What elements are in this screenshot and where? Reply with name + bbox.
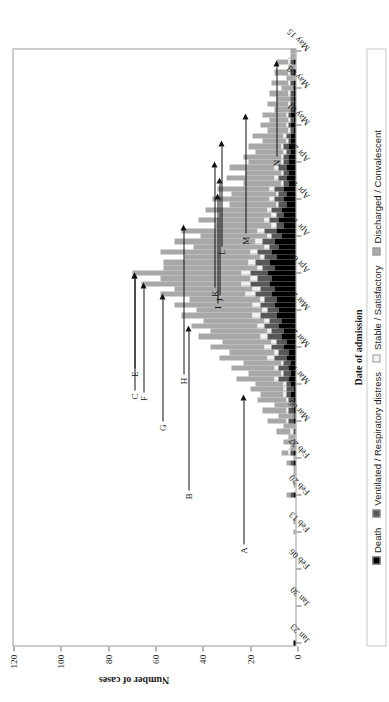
y-tick-mark [60, 646, 61, 651]
bar-segment-disch [215, 223, 272, 228]
bar-segment-disch [160, 249, 250, 254]
legend-label: Discharged / Convalescent [371, 130, 382, 244]
bar-segment-death [274, 265, 295, 270]
y-tick-label: 100 [55, 654, 65, 668]
annotation-arrowhead [273, 60, 279, 66]
bar-segment-vent [264, 296, 276, 301]
bar [163, 259, 296, 264]
bar-segment-disch [141, 281, 240, 286]
bar-segment-disch [236, 376, 274, 381]
bar [260, 392, 295, 397]
y-tick-label: 0 [292, 654, 302, 659]
bar-segment-disch [262, 112, 286, 117]
bar [269, 117, 295, 122]
bar-segment-death [286, 201, 295, 206]
bar-segment-death [293, 386, 295, 391]
bar-segment-death [286, 164, 295, 169]
plot-area: BCEFGHIJKLMNA [12, 48, 296, 646]
bar-segment-disch [278, 413, 292, 418]
bar-segment-death [274, 238, 295, 243]
bar [219, 212, 295, 217]
bar-segment-disch [243, 360, 281, 365]
bar-segment-vent [293, 428, 295, 433]
bar-segment-vent [269, 244, 278, 249]
annotation-leader-line [134, 278, 135, 368]
bar-segment-vent [250, 270, 267, 275]
bar-segment-disch [184, 254, 260, 259]
bar-segment-death [286, 355, 295, 360]
bar-segment-death [293, 59, 295, 64]
annotation-arrowhead [140, 283, 146, 289]
bar [293, 465, 295, 470]
bar [198, 333, 295, 338]
bar [252, 133, 295, 138]
bar [290, 48, 295, 53]
bar-segment-death [286, 191, 295, 196]
bar [229, 164, 295, 169]
x-tick-mark [296, 568, 301, 569]
bar-segment-death [293, 85, 295, 90]
plot-inner: BCEFGHIJKLMNA [13, 49, 295, 645]
bar [276, 428, 295, 433]
bar-segment-disch [217, 186, 269, 191]
bar [160, 291, 295, 296]
bar-segment-vent [255, 259, 269, 264]
bar [229, 349, 295, 354]
bar-segment-vent [274, 355, 286, 360]
bar [212, 196, 295, 201]
bar-segment-disch [267, 418, 286, 423]
y-tick-mark [155, 646, 156, 651]
bar [231, 191, 295, 196]
x-axis: Jan 23Jan 30Feb 06Feb 13Feb 20Feb 27Mar … [296, 48, 356, 646]
bar [181, 312, 295, 317]
bar [219, 355, 295, 360]
bar-segment-death [293, 492, 295, 497]
bar-segment-vent [276, 223, 283, 228]
legend-label: Death [371, 527, 382, 552]
bar-segment-disch [132, 270, 241, 275]
bar [271, 80, 295, 85]
bar-segment-disch [210, 344, 264, 349]
bar-segment-disch [255, 381, 283, 386]
bar-segment-death [290, 392, 295, 397]
annotation-arrowhead [180, 224, 186, 230]
bar-segment-vent [255, 291, 272, 296]
bar-segment-disch [252, 133, 283, 138]
bar-segment-vent [276, 339, 285, 344]
bar-segment-disch [193, 244, 264, 249]
bar [141, 281, 295, 286]
bar-segment-vent [271, 328, 283, 333]
legend-label: Stable / Satisfactory [371, 265, 382, 349]
rotated-figure-wrapper: 020406080100120 Number of cases BCEFGHIJ… [0, 0, 389, 702]
annotation-arrowhead [211, 161, 217, 167]
bar-segment-disch [269, 90, 288, 95]
annotation-arrowhead [240, 394, 246, 400]
legend-swatch [372, 509, 380, 517]
bar-segment-vent [264, 228, 276, 233]
annotation-label: M [240, 236, 250, 244]
bar-segment-death [276, 228, 295, 233]
bar-segment-disch [290, 54, 295, 59]
bar-segment-death [290, 122, 295, 127]
annotation-label: C [129, 393, 139, 399]
y-tick-label: 40 [197, 654, 207, 663]
bar [189, 296, 295, 301]
bar-segment-vent [278, 349, 287, 354]
bar-segment-disch [222, 339, 272, 344]
bar-segment-death [288, 159, 295, 164]
bar-segment-vent [286, 133, 291, 138]
bar [236, 376, 295, 381]
y-tick-mark [13, 646, 14, 651]
bar [278, 413, 295, 418]
bar-segment-vent [264, 323, 278, 328]
y-tick-label: 20 [245, 654, 255, 663]
x-axis-title: Date of admission [352, 48, 363, 646]
annotation-leader-line [245, 119, 246, 233]
bar-segment-death [293, 418, 295, 423]
bar-segment-vent [262, 238, 274, 243]
bar [181, 228, 295, 233]
bar [269, 90, 295, 95]
bar-segment-disch [229, 349, 274, 354]
bar [267, 127, 295, 132]
bar-segment-vent [271, 233, 280, 238]
